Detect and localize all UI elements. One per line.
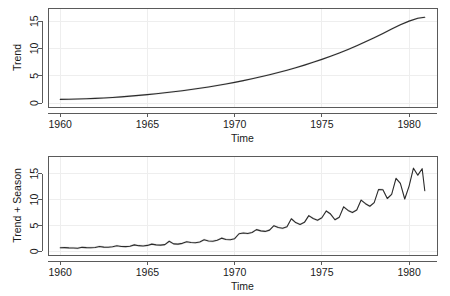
x-tick-label: 1960: [49, 266, 73, 278]
y-tick-label: 15: [28, 168, 40, 180]
y-tick-label: 10: [28, 194, 40, 206]
gridlines-group: [48, 156, 437, 255]
trend-panel: 19601965197019751980Time051015Trend: [0, 0, 450, 148]
y-tick-label: 15: [28, 15, 40, 27]
x-tick-label: 1965: [136, 266, 160, 278]
x-tick-label: 1980: [397, 266, 421, 278]
y-tick-label: 5: [28, 222, 40, 228]
x-axis-group: 19601965197019751980Time: [48, 261, 437, 292]
trend-season-plot: 19601965197019751980Time051015Trend + Se…: [0, 148, 450, 296]
uncertainty-band: [60, 167, 425, 249]
y-tick-label: 5: [28, 73, 40, 79]
trend-season-panel: 19601965197019751980Time051015Trend + Se…: [0, 148, 450, 296]
series-line: [60, 168, 425, 248]
x-axis-title: Time: [231, 132, 254, 144]
plot-frame: [48, 8, 437, 107]
y-axis-title: Trend + Season: [11, 168, 23, 243]
x-axis-title: Time: [231, 280, 254, 292]
x-tick-label: 1975: [310, 266, 334, 278]
trend-plot: 19601965197019751980Time051015Trend: [0, 0, 450, 148]
x-tick-label: 1975: [310, 118, 334, 130]
y-tick-label: 0: [28, 248, 40, 254]
x-axis-group: 19601965197019751980Time: [48, 113, 437, 144]
y-tick-label: 10: [28, 42, 40, 54]
x-tick-label: 1965: [136, 118, 160, 130]
x-tick-label: 1970: [223, 266, 247, 278]
gridlines-group: [48, 8, 437, 107]
series-line: [60, 17, 425, 99]
y-axis-group: 051015Trend + Season: [11, 168, 42, 255]
y-axis-title: Trend: [11, 44, 23, 71]
x-tick-label: 1960: [49, 118, 73, 130]
y-axis-group: 051015Trend: [11, 15, 42, 106]
y-tick-label: 0: [28, 100, 40, 106]
uncertainty-band: [60, 16, 425, 100]
x-tick-label: 1980: [397, 118, 421, 130]
plot-frame: [48, 156, 437, 255]
x-tick-label: 1970: [223, 118, 247, 130]
